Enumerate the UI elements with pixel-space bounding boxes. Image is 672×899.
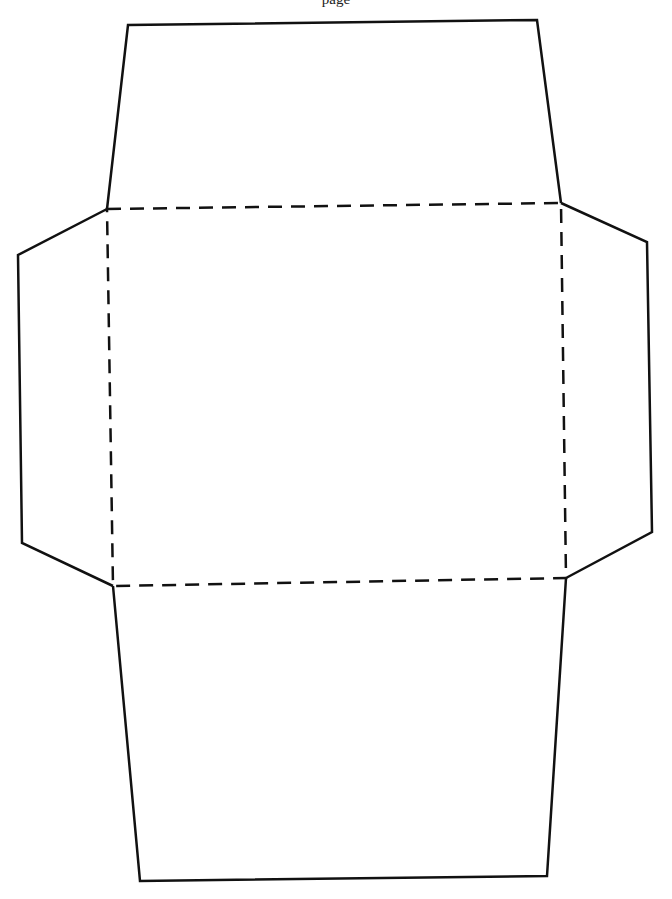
envelope-template (0, 0, 672, 899)
bottom-flap-outline (113, 578, 566, 881)
right-flap-outline (561, 203, 652, 578)
left-flap-outline (18, 209, 113, 586)
fold-line-dashed (107, 203, 566, 586)
top-flap-outline (107, 20, 561, 209)
